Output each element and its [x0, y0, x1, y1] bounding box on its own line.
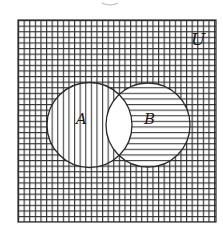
- top-cutoff-mark: [102, 3, 118, 5]
- venn-diagram: U A B: [0, 0, 223, 232]
- set-b-label: B: [143, 110, 155, 128]
- universe-label: U: [191, 29, 206, 49]
- set-a-label: A: [74, 110, 87, 128]
